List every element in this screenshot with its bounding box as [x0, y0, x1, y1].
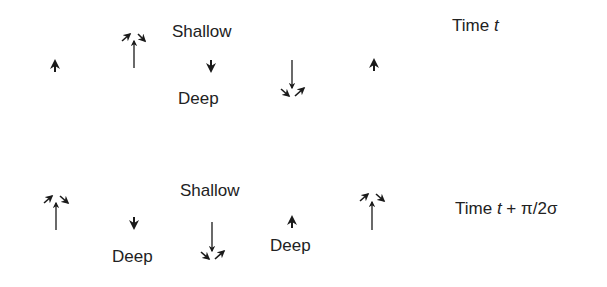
- label-deep: Deep: [270, 236, 311, 256]
- time-word: Time: [455, 199, 492, 218]
- downwelling-arrow-icon: [281, 60, 304, 96]
- downwelling-arrow-icon: [201, 222, 224, 259]
- upwelling-arrow-icon: [44, 196, 68, 230]
- label-deep: Deep: [112, 247, 153, 267]
- label-shallow: Shallow: [180, 181, 240, 201]
- time-word: Time: [452, 16, 489, 35]
- time-variable: t: [497, 199, 502, 218]
- time-label-row2: Time t + π/2σ: [455, 199, 557, 219]
- upwelling-arrow-icon: [122, 34, 145, 68]
- label-shallow: Shallow: [172, 22, 232, 42]
- time-variable: t: [494, 16, 499, 35]
- phase-offset: + π/2σ: [506, 199, 557, 218]
- upwelling-arrow-icon: [360, 194, 384, 230]
- label-deep: Deep: [178, 89, 219, 109]
- time-label-row1: Time t: [452, 16, 499, 36]
